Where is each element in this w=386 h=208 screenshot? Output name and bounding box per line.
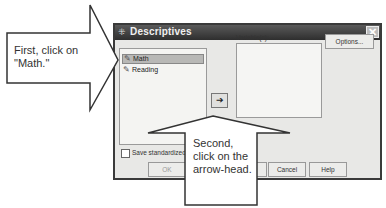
callout-arrows [0, 0, 386, 208]
callout-first-text: First, click on "Math." [14, 44, 88, 70]
callout-second-text: Second, click on the arrow-head. [193, 137, 253, 176]
